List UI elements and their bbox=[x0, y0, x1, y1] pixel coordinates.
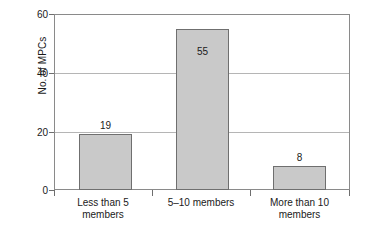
x-tick-mark-2 bbox=[250, 190, 251, 196]
x-tick-label-line-2: members bbox=[250, 209, 349, 221]
x-tick-mark-start bbox=[54, 190, 55, 196]
x-tick-label-less-than-5-members: Less than 5 members bbox=[54, 197, 152, 221]
bar-more-than-10-members[interactable] bbox=[273, 166, 326, 190]
bars-layer: 19 55 8 bbox=[54, 14, 350, 190]
y-tick-label-20: 20 bbox=[8, 128, 48, 138]
x-tick-label-line-1: 5–10 members bbox=[152, 197, 250, 209]
x-tick-label-line-2: members bbox=[54, 209, 152, 221]
x-tick-mark-end bbox=[349, 190, 350, 196]
x-tick-label-line-1: Less than 5 bbox=[54, 197, 152, 209]
x-tick-label-line-1: More than 10 bbox=[250, 197, 349, 209]
bar-value-label-2: 55 bbox=[176, 47, 229, 57]
x-tick-mark-1 bbox=[152, 190, 153, 196]
y-tick-label-40: 40 bbox=[8, 69, 48, 79]
x-tick-label-more-than-10-members: More than 10 members bbox=[250, 197, 349, 221]
y-tick-label-60: 60 bbox=[8, 10, 48, 20]
y-tick-label-0: 0 bbox=[8, 186, 48, 196]
bar-value-label-1: 19 bbox=[79, 121, 132, 131]
bar-chart: No. of MPCs 60 40 20 0 19 55 8 Less than… bbox=[0, 0, 370, 238]
bar-value-label-3: 8 bbox=[273, 153, 326, 163]
bar-less-than-5-members[interactable] bbox=[79, 134, 132, 190]
x-tick-label-5-10-members: 5–10 members bbox=[152, 197, 250, 209]
